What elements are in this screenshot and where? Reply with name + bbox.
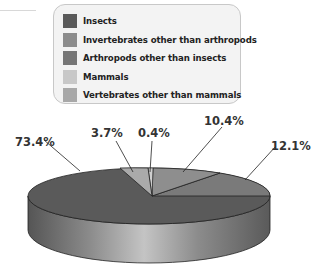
- label-vertebrates: 3.7%: [91, 126, 123, 140]
- label-mammals: 0.4%: [138, 126, 170, 140]
- label-invertebrates: 10.4%: [204, 114, 244, 128]
- label-insects: 73.4%: [15, 135, 55, 149]
- pie-chart: 73.4% 3.7% 0.4% 10.4% 12.1%: [0, 0, 319, 270]
- label-arthropods: 12.1%: [271, 139, 311, 153]
